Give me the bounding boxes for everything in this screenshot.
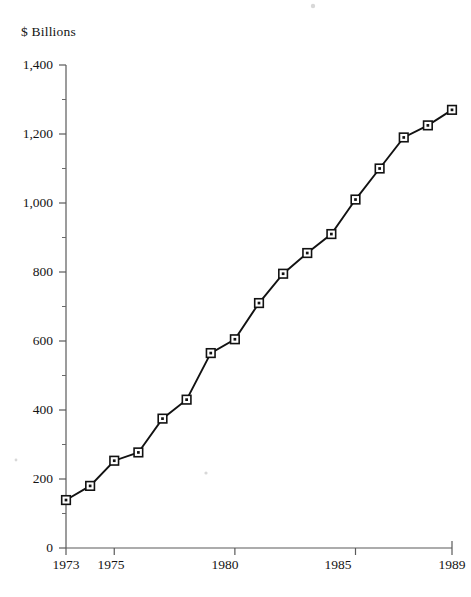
data-point-marker — [255, 299, 264, 308]
data-point-marker — [206, 349, 215, 358]
data-point-marker — [158, 414, 167, 423]
marker-center-dot-icon — [354, 198, 357, 201]
data-point-marker — [279, 269, 288, 278]
marker-center-dot-icon — [209, 352, 212, 355]
x-tick-marks — [66, 548, 452, 555]
data-point-marker — [62, 496, 71, 505]
data-point-marker — [110, 456, 119, 465]
marker-center-dot-icon — [378, 167, 381, 170]
data-point-marker — [399, 133, 408, 142]
data-point-marker — [86, 482, 95, 491]
data-point-marker — [134, 448, 143, 457]
marker-center-dot-icon — [113, 459, 116, 462]
scan-speck — [311, 4, 315, 8]
scan-speck — [204, 471, 207, 474]
marker-center-dot-icon — [427, 124, 430, 127]
marker-center-dot-icon — [137, 451, 140, 454]
marker-center-dot-icon — [451, 109, 454, 112]
data-point-marker — [303, 249, 312, 258]
marker-center-dot-icon — [402, 136, 405, 139]
marker-center-dot-icon — [185, 398, 188, 401]
data-point-marker — [231, 335, 240, 344]
data-point-marker — [448, 106, 457, 115]
marker-center-dot-icon — [306, 252, 309, 255]
marker-center-dot-icon — [89, 485, 92, 488]
marker-center-dot-icon — [161, 417, 164, 420]
data-point-markers — [62, 106, 457, 505]
data-point-marker — [182, 395, 191, 404]
data-point-marker — [351, 195, 360, 204]
marker-center-dot-icon — [282, 272, 285, 275]
marker-center-dot-icon — [330, 233, 333, 236]
chart-container: $ Billions 1,400 1,200 1,000 800 600 400… — [0, 0, 471, 597]
marker-center-dot-icon — [65, 499, 68, 502]
marker-center-dot-icon — [258, 302, 261, 305]
y-tick-marks — [59, 65, 66, 548]
plot-area — [0, 0, 471, 597]
scan-speck — [15, 459, 18, 462]
data-point-marker — [424, 121, 433, 130]
data-point-marker — [375, 164, 384, 173]
data-point-marker — [327, 230, 336, 239]
marker-center-dot-icon — [234, 338, 237, 341]
